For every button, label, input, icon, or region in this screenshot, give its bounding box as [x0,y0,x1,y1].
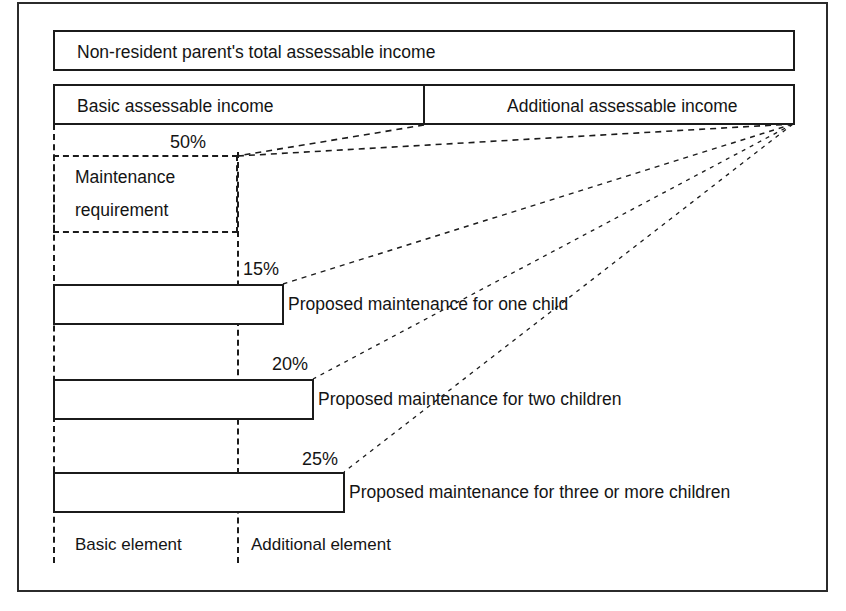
percent-label-maintenance-requirement: 50% [170,133,206,151]
percent-label-three-or-more: 25% [302,450,338,468]
additional-assessable-income-box: Additional assessable income [423,84,795,125]
caption-two-children: Proposed maintenance for two children [318,391,622,409]
connector-origin-to-50 [237,124,793,156]
connector-origin-to-20 [313,124,793,379]
maintenance-requirement-line1: Maintenance [75,169,175,187]
caption-one-child: Proposed maintenance for one child [288,296,568,314]
diagram-canvas: Non-resident parent's total assessable i… [0,0,846,611]
percent-label-two-children: 20% [272,355,308,373]
basic-assessable-income-box: Basic assessable income [53,84,425,125]
legend-basic-element: Basic element [75,536,182,553]
maintenance-requirement-line2: requirement [75,202,168,220]
bar-one-child [53,284,284,325]
legend-additional-element: Additional element [251,536,391,553]
additional-assessable-income-label: Additional assessable income [507,98,738,116]
basic-assessable-income-label: Basic assessable income [77,98,273,116]
total-assessable-income-box: Non-resident parent's total assessable i… [53,30,795,71]
bar-three-or-more-children [53,472,345,513]
total-assessable-income-label: Non-resident parent's total assessable i… [77,44,435,62]
percent-label-one-child: 15% [243,260,279,278]
bar-two-children [53,379,314,420]
caption-three-or-more-children: Proposed maintenance for three or more c… [349,484,730,502]
maintenance-requirement-box: Maintenance requirement [53,155,238,233]
